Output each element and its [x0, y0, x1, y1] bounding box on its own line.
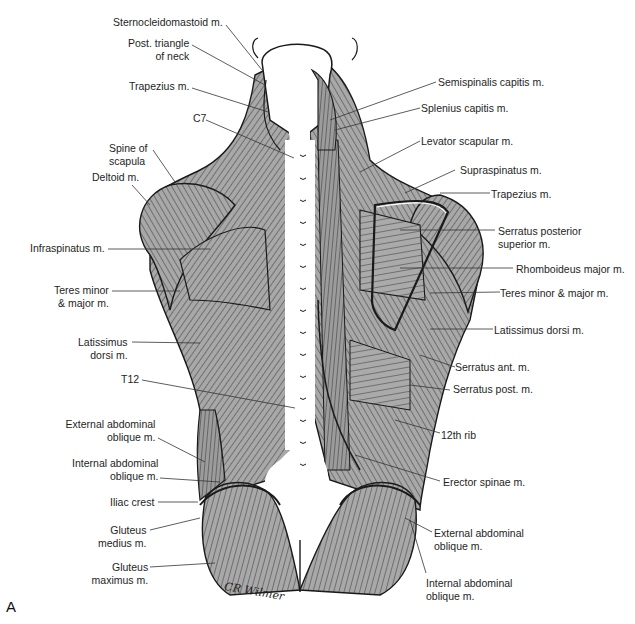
label-12th-rib: 12th rib — [441, 429, 476, 442]
label-splenius-capitis: Splenius capitis m. — [421, 102, 509, 115]
label-serratus-post-sup: Serratus posterior superior m. — [498, 225, 581, 251]
label-deltoid: Deltoid m. — [92, 171, 139, 184]
label-t12: T12 — [121, 373, 139, 386]
label-latissimus-left: Latissimus dorsi m. — [78, 336, 128, 362]
label-latissimus-right: Latissimus dorsi m. — [494, 324, 584, 337]
label-teres-right: Teres minor & major m. — [500, 287, 609, 300]
label-rhomboideus-major: Rhomboideus major m. — [516, 263, 625, 276]
label-ext-oblique-left: External abdominal oblique m. — [65, 418, 155, 444]
label-iliac-crest: Iliac crest — [110, 496, 154, 509]
label-trapezius-left: Trapezius m. — [129, 80, 189, 93]
label-semispinalis-capitis: Semispinalis capitis m. — [438, 76, 544, 89]
back-muscles-illustration — [0, 0, 635, 624]
label-trapezius-right: Trapezius m. — [491, 188, 551, 201]
label-infraspinatus: Infraspinatus m. — [30, 242, 105, 255]
label-int-oblique-right: Internal abdominal oblique m. — [426, 577, 512, 603]
anatomy-figure: Sternocleidomastoid m. Post. triangle of… — [0, 0, 635, 624]
label-serratus-post: Serratus post. m. — [453, 383, 533, 396]
label-int-oblique-left: Internal abdominal oblique m. — [70, 457, 158, 483]
label-erector-spinae: Erector spinae m. — [443, 476, 525, 489]
panel-letter: A — [6, 598, 16, 615]
label-levator-scapulae: Levator scapular m. — [421, 135, 513, 148]
label-ext-oblique-right: External abdominal oblique m. — [434, 527, 524, 553]
label-c7: C7 — [193, 112, 206, 125]
label-gluteus-medius: Gluteus medius m. — [98, 524, 146, 550]
label-serratus-ant: Serratus ant. m. — [455, 361, 530, 374]
label-post-triangle-of-neck: Post. triangle of neck — [128, 37, 189, 63]
label-gluteus-maximus: Gluteus maximus m. — [90, 561, 148, 587]
label-supraspinatus: Supraspinatus m. — [460, 164, 542, 177]
label-spine-of-scapula: Spine of scapula — [109, 142, 148, 168]
label-teres-left: Teres minor & major m. — [54, 284, 109, 310]
label-sternocleidomastoid: Sternocleidomastoid m. — [113, 16, 223, 29]
